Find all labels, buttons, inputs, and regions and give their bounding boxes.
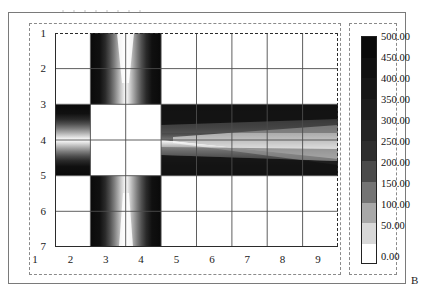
colorbar-legend-panel: 500.00 450.00 400.00 350.00 300.00 250.0… — [349, 23, 397, 275]
y-tick-label-2: 2 — [32, 63, 46, 74]
colorbar-band-100 — [362, 203, 376, 224]
colorbar-tick-350: 350.00 — [381, 95, 410, 106]
colorbar-band-250 — [362, 141, 376, 162]
plot-panel: 1 2 3 4 5 6 7 1 2 3 4 5 6 7 8 9 — [29, 23, 341, 275]
colorbar-tick-500: 500.00 — [381, 32, 410, 43]
x-tick-label-7: 7 — [240, 254, 254, 265]
colorbar[interactable] — [361, 36, 377, 264]
colorbar-band-50 — [362, 223, 376, 244]
x-tick-label-6: 6 — [205, 254, 219, 265]
x-tick-label-2: 2 — [63, 254, 77, 265]
scan-artifact-strip — [62, 1, 192, 8]
x-tick-label-1: 1 — [28, 254, 42, 265]
colorbar-tick-250: 250.00 — [381, 137, 410, 148]
colorbar-band-200 — [362, 161, 376, 182]
contour-axes — [55, 33, 338, 247]
y-tick-label-1: 1 — [32, 28, 46, 39]
colorbar-tick-50: 50.00 — [381, 221, 405, 232]
figure-frame: 1 2 3 4 5 6 7 1 2 3 4 5 6 7 8 9 — [8, 12, 406, 284]
colorbar-tick-400: 400.00 — [381, 74, 410, 85]
colorbar-tick-150: 150.00 — [381, 179, 410, 190]
colorbar-tick-300: 300.00 — [381, 116, 410, 127]
y-tick-label-5: 5 — [32, 170, 46, 181]
x-tick-label-5: 5 — [170, 254, 184, 265]
colorbar-band-400 — [362, 78, 376, 99]
x-tick-label-3: 3 — [99, 254, 113, 265]
y-tick-label-3: 3 — [32, 99, 46, 110]
contour-heatmap — [55, 33, 338, 247]
colorbar-band-300 — [362, 120, 376, 141]
y-tick-label-4: 4 — [32, 135, 46, 146]
colorbar-tick-0: 0.00 — [381, 252, 399, 263]
colorbar-band-500 — [362, 37, 376, 58]
colorbar-tick-200: 200.00 — [381, 158, 410, 169]
x-tick-label-4: 4 — [134, 254, 148, 265]
colorbar-band-350 — [362, 99, 376, 120]
colorbar-band-150 — [362, 182, 376, 203]
colorbar-band-450 — [362, 58, 376, 79]
colorbar-tick-100: 100.00 — [381, 200, 410, 211]
y-tick-label-7: 7 — [32, 241, 46, 252]
x-tick-label-8: 8 — [276, 254, 290, 265]
y-tick-label-6: 6 — [32, 206, 46, 217]
colorbar-band-0 — [362, 244, 376, 264]
colorbar-tick-450: 450.00 — [381, 53, 410, 64]
x-tick-label-9: 9 — [311, 254, 325, 265]
figure-corner-label: B — [411, 274, 418, 286]
